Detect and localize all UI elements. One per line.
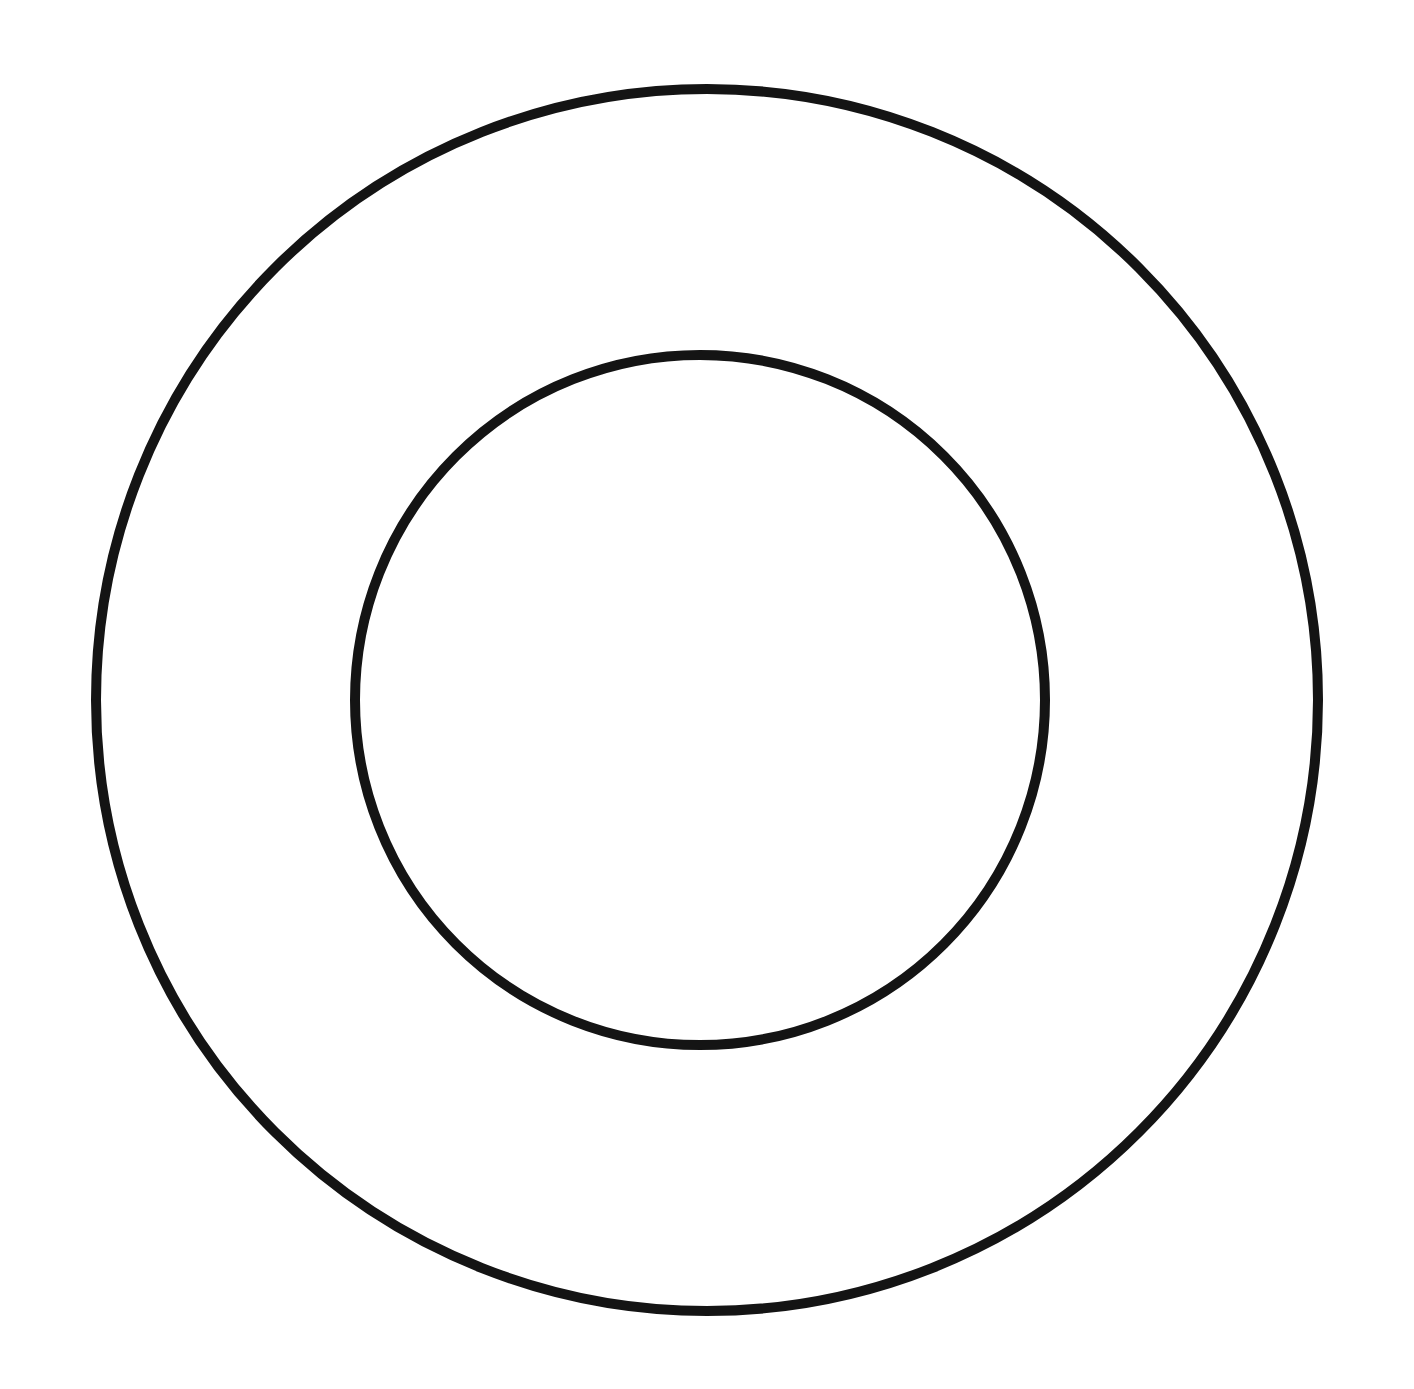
background: [0, 0, 1414, 1389]
concentric-circles-diagram: [0, 0, 1414, 1389]
